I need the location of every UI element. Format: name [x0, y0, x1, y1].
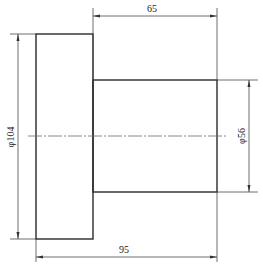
dimension-label-phi56: φ56 — [236, 128, 247, 144]
dimension-small-diameter: φ56 — [217, 80, 258, 192]
dimension-large-diameter: φ104 — [5, 34, 36, 239]
technical-drawing: 65 95 φ104 φ56 — [0, 0, 263, 276]
dimension-step-length: 65 — [93, 3, 217, 80]
dimension-label-phi104: φ104 — [5, 127, 16, 148]
large-diameter-section — [36, 34, 93, 239]
dimension-label-95: 95 — [119, 244, 129, 255]
part-outline — [36, 34, 217, 239]
dimension-label-65: 65 — [147, 3, 157, 14]
dimension-total-length: 95 — [36, 192, 217, 262]
